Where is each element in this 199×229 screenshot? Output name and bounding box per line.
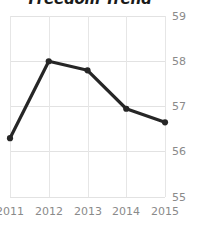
- x-tick-label-2013: 2013: [68, 206, 108, 217]
- gridline-x-2013: [88, 16, 89, 197]
- x-tick-label-2014: 2014: [106, 206, 146, 217]
- gridline-x-2015: [165, 16, 166, 197]
- y-tick-label-59: 59: [172, 11, 196, 22]
- gridline-x-2014: [126, 16, 127, 197]
- chart-title: Freedom Trend: [0, 0, 180, 8]
- x-tick-label-2011: 2011: [0, 206, 30, 217]
- y-tick-label-55: 55: [172, 192, 196, 203]
- y-tick-label-56: 56: [172, 146, 196, 157]
- y-tick-label-58: 58: [172, 56, 196, 67]
- x-tick-label-2015: 2015: [145, 206, 185, 217]
- x-tick-label-2012: 2012: [29, 206, 69, 217]
- gridline-x-2011: [10, 16, 11, 197]
- gridline-x-2012: [49, 16, 50, 197]
- line-chart: Freedom Trend 59 58 57 56 55 2011 2012 2…: [0, 0, 199, 229]
- y-tick-label-57: 57: [172, 101, 196, 112]
- gridline-y-55: [10, 197, 165, 198]
- plot-area: [10, 16, 165, 197]
